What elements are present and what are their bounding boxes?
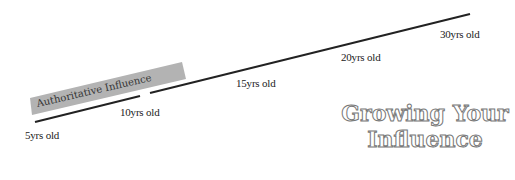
- title-line-1: Growing Your: [340, 100, 510, 126]
- milestone-5yrs: 5yrs old: [25, 129, 59, 141]
- diagram-title: Growing Your Influence: [340, 100, 510, 152]
- milestone-10yrs: 10yrs old: [120, 106, 159, 118]
- timeline-line-segment-2: [150, 14, 470, 93]
- milestone-30yrs: 30yrs old: [440, 28, 479, 40]
- milestone-15yrs: 15yrs old: [236, 77, 275, 89]
- milestone-20yrs: 20yrs old: [341, 51, 380, 63]
- title-line-2: Influence: [340, 126, 510, 152]
